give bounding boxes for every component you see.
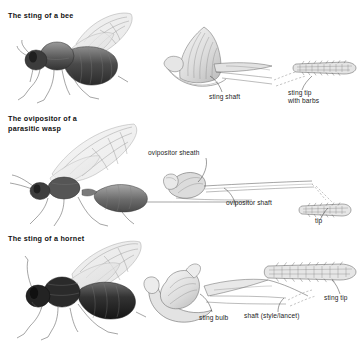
wasp-ovipositor-apparatus	[163, 158, 351, 220]
leader-sting-tip	[332, 280, 340, 294]
leader-sting-tip	[302, 76, 312, 90]
figure-page: The sting of a bee	[0, 0, 361, 342]
panel-wasp-artwork	[0, 112, 361, 230]
callout-hornet-sting-bulb: sting bulb	[199, 314, 228, 322]
panel-bee: The sting of a bee	[0, 0, 361, 112]
callout-hornet-shaft: shaft (style/lancet)	[244, 312, 300, 320]
wasp-drawing	[10, 124, 250, 226]
callout-hornet-sting-tip: sting tip	[324, 294, 348, 302]
bee-sting-tip-detail	[293, 60, 356, 75]
callout-wasp-ovipositor-shaft: ovipositor shaft	[226, 199, 272, 207]
panel-hornet-artwork	[0, 230, 361, 342]
panel-wasp: The ovipositor of a parasitic wasp	[0, 112, 361, 230]
callout-wasp-tip: tip	[315, 217, 322, 225]
callout-wasp-ovipositor-sheath: ovipositor sheath	[148, 149, 200, 157]
leader-shaft	[278, 298, 284, 312]
wasp-ovipositor-tip-detail	[299, 203, 351, 218]
bee-sting-apparatus	[164, 27, 356, 92]
hornet-drawing	[17, 241, 146, 340]
bee-drawing	[17, 13, 132, 103]
panel-hornet: The sting of a hornet	[0, 230, 361, 342]
leader-sting-bulb	[200, 294, 212, 312]
hornet-sting-tip-detail	[264, 262, 356, 283]
callout-bee-sting-shaft: sting shaft	[209, 93, 240, 101]
callout-bee-sting-tip: sting tip with barbs	[288, 89, 319, 105]
